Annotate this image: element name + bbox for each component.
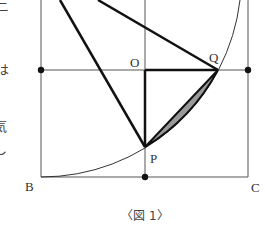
label-b: B (25, 180, 34, 193)
figure-caption: 〈図 1〉 (0, 206, 265, 223)
label-o: O (130, 56, 139, 69)
label-q: Q (209, 51, 218, 64)
shaded-segment-pq (145, 70, 218, 147)
quarter-circle-arc (41, 0, 240, 177)
left-midpoint-dot (38, 67, 44, 73)
label-c: C (251, 181, 260, 194)
side-text-1: ニ (0, 0, 9, 13)
side-text-2: は (0, 63, 9, 76)
bottom-midpoint-dot (142, 174, 148, 180)
line-to-q (98, 0, 218, 70)
geometry-figure (0, 0, 265, 229)
label-p: P (150, 152, 157, 165)
right-midpoint-dot (245, 67, 251, 73)
side-text-4: し (0, 143, 7, 156)
side-text-3: 気 (0, 120, 7, 133)
line-to-p (60, 0, 145, 147)
